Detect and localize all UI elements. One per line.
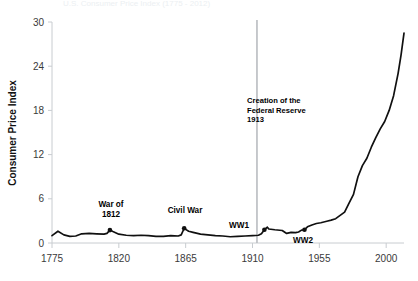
- chart-title: U.S. Consumer Price Index (1775 - 2012): [63, 0, 211, 8]
- annotation-war-of-1812: 1812: [102, 210, 121, 219]
- annotation-civil-war: Civil War: [168, 206, 204, 215]
- y-tick-label: 30: [33, 17, 45, 28]
- y-tick-label: 6: [38, 193, 44, 204]
- y-tick-label: 18: [33, 105, 45, 116]
- y-tick-label: 12: [33, 149, 45, 160]
- x-tick-label: 1865: [175, 253, 198, 264]
- x-tick-label: 1775: [41, 253, 64, 264]
- event-dot-war-of-1812: [108, 228, 113, 233]
- x-tick-label: 2000: [375, 253, 398, 264]
- y-axis-title: Consumer Price Index: [7, 80, 18, 186]
- x-axis-tick-labels: 177518201865191019552000: [41, 243, 398, 264]
- event-annotations: War of1812Civil WarWW1WW2: [98, 200, 313, 245]
- federal-reserve-annotation-line: Creation of the: [247, 96, 301, 105]
- y-axis-tick-labels: 0612182430: [33, 17, 52, 249]
- federal-reserve-annotation: Creation of theFederal Reserve1913: [247, 96, 306, 124]
- event-dot-civil-war: [182, 226, 187, 231]
- x-tick-label: 1820: [108, 253, 131, 264]
- annotation-war-of-1812: War of: [98, 200, 123, 209]
- event-dot-ww1: [262, 227, 267, 232]
- event-dot-ww2: [302, 227, 307, 232]
- x-tick-label: 1910: [241, 253, 264, 264]
- y-tick-label: 24: [33, 61, 45, 72]
- annotation-ww2: WW2: [293, 236, 313, 245]
- federal-reserve-annotation-line: 1913: [247, 115, 264, 124]
- federal-reserve-annotation-line: Federal Reserve: [247, 106, 306, 115]
- cpi-line-chart: U.S. Consumer Price Index (1775 - 2012) …: [0, 0, 418, 281]
- x-tick-label: 1955: [308, 253, 331, 264]
- y-tick-label: 0: [38, 238, 44, 249]
- annotation-ww1: WW1: [229, 221, 249, 230]
